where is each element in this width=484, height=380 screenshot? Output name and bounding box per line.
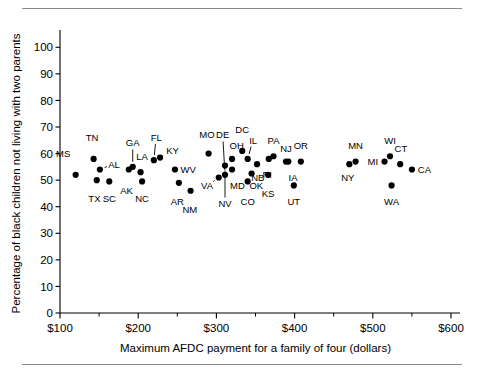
- x-tick-label: $600: [438, 322, 464, 334]
- data-point-label-VA: VA: [201, 180, 214, 191]
- data-point-MD[interactable]: [229, 166, 235, 172]
- data-point-label-MD: MD: [230, 180, 245, 191]
- data-point-label-SC: SC: [103, 193, 116, 204]
- y-tick-label: 10: [40, 281, 53, 293]
- data-point-GA[interactable]: [130, 164, 136, 170]
- x-tick-label: $300: [204, 322, 230, 334]
- data-point-label-CO: CO: [241, 196, 255, 207]
- data-point-CA[interactable]: [409, 166, 415, 172]
- x-tick-label: $200: [125, 322, 151, 334]
- data-point-label-PA: PA: [268, 135, 281, 146]
- data-point-IA[interactable]: [285, 158, 291, 164]
- y-tick-label: 50: [40, 174, 53, 186]
- point-leader-line: [213, 180, 214, 182]
- data-point-label-WA: WA: [384, 196, 400, 207]
- data-point-OH[interactable]: [229, 156, 235, 162]
- data-point-label-DC: DC: [235, 124, 249, 135]
- data-point-NB[interactable]: [254, 161, 260, 167]
- x-tick-label: $500: [360, 322, 386, 334]
- y-tick-label: 0: [47, 307, 53, 319]
- data-point-label-NM: NM: [182, 204, 197, 215]
- scatter-plot: 0102030405060708090100$100$200$300$400$5…: [0, 0, 484, 380]
- data-point-WI[interactable]: [387, 153, 393, 159]
- y-axis-title: Percentage of black children not living …: [10, 33, 22, 313]
- data-point-DC[interactable]: [239, 148, 245, 154]
- data-point-NV[interactable]: [222, 162, 228, 168]
- data-point-label-AK: AK: [120, 185, 133, 196]
- data-point-CT[interactable]: [397, 161, 403, 167]
- data-point-label-OR: OR: [294, 140, 308, 151]
- data-point-IL[interactable]: [245, 156, 251, 162]
- data-point-TN[interactable]: [91, 156, 97, 162]
- data-point-AL[interactable]: [97, 166, 103, 172]
- data-point-label-KY: KY: [166, 145, 179, 156]
- data-point-TX[interactable]: [94, 177, 100, 183]
- data-point-SC[interactable]: [106, 178, 112, 184]
- y-tick-label: 80: [40, 95, 53, 107]
- data-point-label-DE: DE: [216, 129, 229, 140]
- data-point-MS[interactable]: [73, 172, 79, 178]
- data-point-label-UT: UT: [287, 196, 300, 207]
- data-point-WA[interactable]: [388, 182, 394, 188]
- x-tick-label: $400: [282, 322, 308, 334]
- data-point-label-FL: FL: [151, 132, 162, 143]
- data-point-label-MO: MO: [199, 129, 214, 140]
- y-tick-label: 70: [40, 121, 53, 133]
- y-tick-label: 90: [40, 68, 53, 80]
- data-point-PA[interactable]: [270, 153, 276, 159]
- data-point-label-CA: CA: [418, 164, 432, 175]
- point-leader-line: [249, 147, 251, 155]
- data-point-LA[interactable]: [137, 169, 143, 175]
- data-point-label-WV: WV: [181, 164, 197, 175]
- data-point-MN[interactable]: [352, 158, 358, 164]
- data-point-label-MI: MI: [368, 156, 379, 167]
- data-point-label-IL: IL: [249, 135, 257, 146]
- data-point-label-GA: GA: [126, 137, 140, 148]
- data-point-label-NY: NY: [341, 172, 355, 183]
- data-point-VA[interactable]: [216, 174, 222, 180]
- data-point-label-MN: MN: [348, 140, 363, 151]
- figure-container: 0102030405060708090100$100$200$300$400$5…: [0, 0, 484, 380]
- data-point-label-TN: TN: [86, 132, 99, 143]
- data-point-label-NJ: NJ: [280, 143, 292, 154]
- data-point-label-CT: CT: [395, 143, 408, 154]
- data-point-KY[interactable]: [157, 154, 163, 160]
- data-point-KS[interactable]: [265, 172, 271, 178]
- x-tick-label: $100: [47, 322, 73, 334]
- data-point-label-AL: AL: [108, 159, 120, 170]
- point-leader-line: [154, 144, 155, 155]
- data-point-AR[interactable]: [176, 180, 182, 186]
- data-point-UT[interactable]: [291, 182, 297, 188]
- data-point-label-KS: KS: [262, 188, 275, 199]
- data-point-NM[interactable]: [187, 188, 193, 194]
- y-tick-label: 60: [40, 148, 53, 160]
- data-point-MI[interactable]: [381, 158, 387, 164]
- data-point-label-NC: NC: [135, 193, 149, 204]
- y-tick-label: 30: [40, 227, 53, 239]
- point-leader-line: [105, 166, 107, 167]
- data-point-label-IA: IA: [289, 172, 299, 183]
- data-point-NY[interactable]: [346, 161, 352, 167]
- data-point-label-MS: MS: [56, 148, 70, 159]
- data-point-NC[interactable]: [139, 178, 145, 184]
- data-point-label-TX: TX: [88, 193, 101, 204]
- data-point-FL[interactable]: [151, 157, 157, 163]
- data-point-OR[interactable]: [298, 158, 304, 164]
- y-tick-label: 20: [40, 254, 53, 266]
- y-tick-label: 100: [34, 41, 53, 53]
- data-point-MO[interactable]: [205, 150, 211, 156]
- data-point-label-LA: LA: [136, 151, 148, 162]
- y-tick-label: 40: [40, 201, 53, 213]
- data-point-WV[interactable]: [172, 166, 178, 172]
- data-point-label-NV: NV: [218, 198, 232, 209]
- x-axis-title: Maximum AFDC payment for a family of fou…: [120, 342, 391, 354]
